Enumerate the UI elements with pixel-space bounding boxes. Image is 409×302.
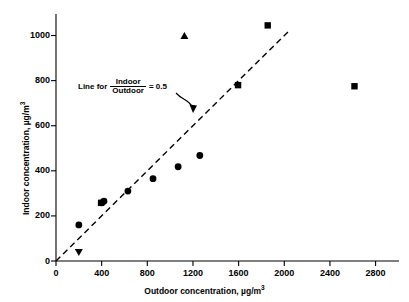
data-point-square	[265, 22, 271, 28]
y-tick-label: 0	[6, 257, 50, 266]
x-tick-label: 2000	[264, 269, 304, 278]
x-axis-title: Outdoor concentration, µg/m3	[0, 285, 409, 295]
data-point-circle	[150, 175, 157, 182]
annotation-fraction: Indoor Outdoor	[110, 78, 146, 96]
x-tick-label: 1200	[173, 269, 213, 278]
data-point-square	[235, 82, 241, 88]
data-point-square	[98, 200, 104, 206]
annotation-equals: = 0.5	[149, 83, 167, 91]
y-axis-title: Indoor concentration, µg/m3	[20, 102, 30, 215]
y-tick-marks	[51, 36, 56, 261]
data-point-triangle-up	[180, 32, 188, 39]
x-tick-label: 400	[82, 269, 122, 278]
x-tick-label: 1600	[219, 269, 259, 278]
data-point-circle	[125, 188, 132, 195]
x-tick-marks	[56, 261, 376, 266]
scatter-chart: 02004006008001000 0400800120016002000240…	[0, 0, 409, 302]
y-tick-label: 1000	[6, 31, 50, 40]
reference-line-annotation: Line for Indoor Outdoor = 0.5	[78, 78, 167, 96]
annotation-prefix: Line for	[78, 83, 107, 91]
data-markers	[75, 22, 358, 256]
data-point-circle	[175, 163, 182, 170]
y-tick-label: 800	[6, 76, 50, 85]
annotation-numerator: Indoor	[114, 78, 143, 86]
x-tick-label: 800	[127, 269, 167, 278]
reference-line-indoor-outdoor-0.5	[56, 30, 290, 261]
plot-area	[0, 0, 409, 302]
data-point-circle	[75, 222, 82, 229]
data-point-triangle-down	[75, 249, 83, 256]
data-point-circle	[196, 152, 203, 159]
x-tick-label: 0	[36, 269, 76, 278]
x-tick-label: 2800	[356, 269, 396, 278]
x-tick-label: 2400	[310, 269, 350, 278]
data-point-square	[351, 83, 357, 89]
annotation-denominator: Outdoor	[110, 86, 146, 95]
annotation-arrowhead	[190, 105, 198, 114]
